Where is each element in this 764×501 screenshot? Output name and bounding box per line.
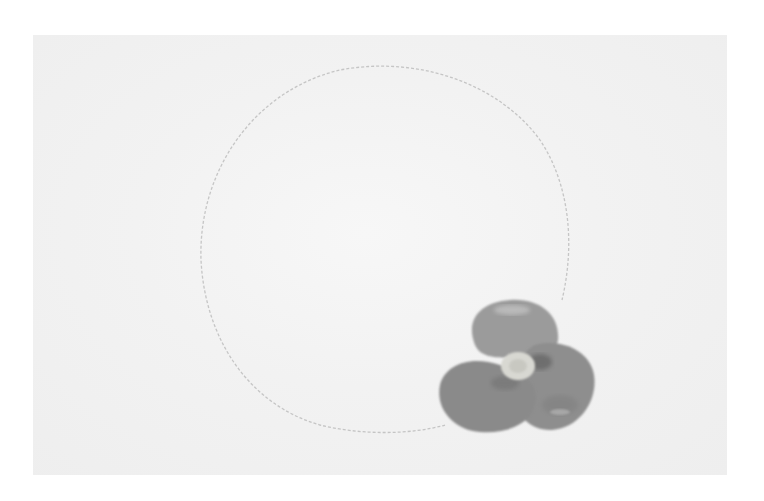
flower bbox=[439, 300, 594, 432]
watercolor-artwork bbox=[0, 0, 764, 501]
